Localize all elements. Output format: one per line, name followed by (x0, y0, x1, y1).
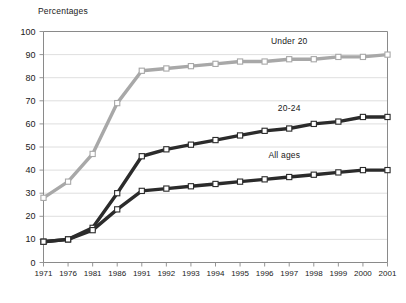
data-point-marker (139, 154, 144, 159)
x-tick-label: 2001 (372, 269, 404, 278)
data-point-marker (287, 57, 292, 62)
data-point-marker (262, 59, 267, 64)
data-point-marker (139, 188, 144, 193)
data-point-marker (287, 174, 292, 179)
data-point-marker (336, 170, 341, 175)
y-tick-label: 60 (12, 119, 36, 129)
data-point-marker (311, 121, 316, 126)
data-point-marker (164, 66, 169, 71)
series-label-20-24: 20-24 (278, 103, 301, 113)
data-point-marker (385, 168, 390, 173)
series-label-all-ages: All ages (268, 150, 300, 160)
data-point-marker (287, 126, 292, 131)
data-point-marker (115, 191, 120, 196)
data-point-marker (237, 133, 242, 138)
chart-plot-area (0, 0, 406, 303)
series-20-24 (41, 114, 390, 244)
data-point-marker (41, 239, 46, 244)
data-point-marker (237, 179, 242, 184)
y-tick-label: 70 (12, 96, 36, 106)
series-under-20 (41, 52, 390, 200)
data-point-marker (237, 59, 242, 64)
data-point-marker (188, 64, 193, 69)
data-point-marker (115, 101, 120, 106)
data-point-marker (164, 186, 169, 191)
data-point-marker (115, 207, 120, 212)
data-point-marker (65, 237, 70, 242)
data-point-marker (90, 151, 95, 156)
data-point-marker (360, 54, 365, 59)
y-tick-label: 0 (12, 258, 36, 268)
data-point-marker (188, 184, 193, 189)
y-tick-label: 20 (12, 211, 36, 221)
data-point-marker (139, 68, 144, 73)
chart-container: Percentages 0102030405060708090100 19711… (0, 0, 406, 303)
data-point-marker (385, 114, 390, 119)
data-point-marker (65, 179, 70, 184)
data-point-marker (360, 168, 365, 173)
data-point-marker (262, 177, 267, 182)
data-point-marker (360, 114, 365, 119)
series-label-under-20: Under 20 (271, 36, 308, 46)
data-point-marker (213, 181, 218, 186)
y-tick-label: 100 (12, 27, 36, 37)
data-point-marker (336, 54, 341, 59)
data-point-marker (311, 57, 316, 62)
data-point-marker (90, 228, 95, 233)
series-line (44, 117, 388, 242)
series-all-ages (41, 168, 390, 245)
y-tick-label: 80 (12, 73, 36, 83)
data-point-marker (262, 128, 267, 133)
y-tick-label: 10 (12, 234, 36, 244)
y-tick-label: 90 (12, 50, 36, 60)
y-tick-label: 40 (12, 165, 36, 175)
data-point-marker (385, 52, 390, 57)
data-point-marker (41, 195, 46, 200)
y-tick-label: 50 (12, 142, 36, 152)
data-point-marker (213, 61, 218, 66)
data-point-marker (336, 119, 341, 124)
y-tick-label: 30 (12, 188, 36, 198)
data-point-marker (311, 172, 316, 177)
data-point-marker (188, 142, 193, 147)
data-point-marker (213, 137, 218, 142)
data-point-marker (164, 147, 169, 152)
series-line (44, 55, 388, 198)
